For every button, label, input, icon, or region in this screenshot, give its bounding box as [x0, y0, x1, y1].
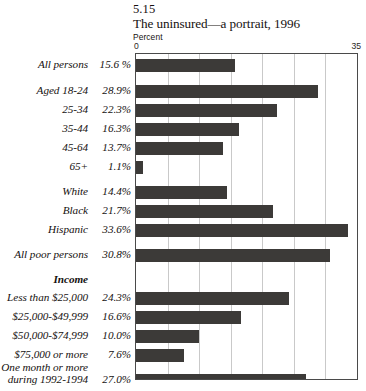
category-label: White [62, 185, 93, 197]
category-row: $50,000-$74,99910.0% [0, 329, 131, 342]
value-label: 14.4% [93, 185, 131, 197]
value-label: 30.8% [93, 248, 131, 260]
category-row: $25,000-$49,99916.6% [0, 310, 131, 323]
category-row: All persons15.6 % [0, 58, 131, 71]
value-label: 22.3% [93, 103, 131, 115]
category-label: 35-44 [62, 122, 93, 134]
chart-header: 5.15 The uninsured—a portrait, 1996 Perc… [133, 2, 363, 43]
category-label: One month or more during 1992-1994 [0, 361, 93, 386]
x-axis-tick-max: 35 [351, 41, 361, 51]
bar [136, 186, 227, 199]
group-heading-row: Income [0, 273, 131, 286]
chart-title: The uninsured—a portrait, 1996 [133, 16, 363, 31]
value-label: 16.3% [93, 122, 131, 134]
value-label: 13.7% [93, 141, 131, 153]
category-row: 25-3422.3% [0, 103, 131, 116]
category-row: Less than $25,00024.3% [0, 291, 131, 304]
bar [136, 330, 199, 343]
category-row: All poor persons30.8% [0, 248, 131, 261]
bar-series [136, 54, 357, 379]
value-label: 15.6 % [93, 58, 131, 70]
category-label: 25-34 [62, 103, 93, 115]
bar [136, 224, 348, 237]
value-label: 28.9% [93, 84, 131, 96]
category-label: Black [63, 204, 93, 216]
plot-area [135, 53, 358, 380]
x-axis-tick-labels: 0 35 [135, 41, 358, 53]
value-label: 24.3% [93, 291, 131, 303]
category-label: Less than $25,000 [7, 291, 93, 303]
value-label: 27.0% [93, 373, 131, 386]
bar [136, 123, 239, 136]
value-label: 21.7% [93, 204, 131, 216]
figure-number: 5.15 [133, 2, 363, 16]
category-row: Black21.7% [0, 204, 131, 217]
group-heading-label: Income [53, 273, 131, 285]
bar [136, 142, 223, 155]
bar [136, 85, 318, 98]
category-label: $25,000-$49,999 [12, 310, 93, 322]
category-label-column: All persons15.6 %Aged 18-2428.9%25-3422.… [0, 53, 131, 380]
bar [136, 292, 289, 305]
category-row: Aged 18-2428.9% [0, 84, 131, 97]
x-axis-tick-min: 0 [134, 41, 139, 51]
value-label: 1.1% [93, 160, 131, 172]
category-label: All poor persons [14, 248, 93, 260]
bar [136, 161, 143, 174]
value-label: 7.6% [93, 348, 131, 360]
category-row: White14.4% [0, 185, 131, 198]
category-row: One month or more during 1992-199427.0% [0, 360, 131, 386]
category-label: 65+ [69, 160, 93, 172]
bar [136, 205, 273, 218]
category-row: 65+1.1% [0, 160, 131, 173]
value-label: 16.6% [93, 310, 131, 322]
category-label: $75,000 or more [14, 348, 93, 360]
bar [136, 59, 235, 72]
category-label: Hispanic [48, 223, 93, 235]
category-label: Aged 18-24 [37, 84, 93, 96]
category-row: Hispanic33.6% [0, 223, 131, 236]
category-row: 45-6413.7% [0, 141, 131, 154]
bar [136, 349, 184, 362]
category-row: 35-4416.3% [0, 122, 131, 135]
category-label: $50,000-$74,999 [12, 329, 93, 341]
value-label: 10.0% [93, 329, 131, 341]
bar [136, 249, 330, 262]
bar [136, 311, 241, 324]
category-label: 45-64 [62, 141, 93, 153]
bar [136, 104, 277, 117]
category-label: All persons [38, 58, 93, 70]
value-label: 33.6% [93, 223, 131, 235]
bar [136, 374, 306, 380]
